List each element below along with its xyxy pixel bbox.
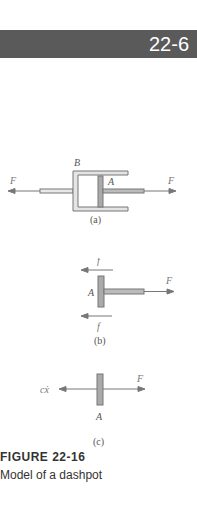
label-B: B [74, 157, 80, 168]
section-number: 22-6 [149, 31, 189, 57]
section-header-bar: 22-6 [0, 30, 197, 58]
dashpot-diagram-a: B A F F (a) [0, 150, 197, 225]
label-F: F [136, 373, 144, 384]
label-F-left: F [9, 175, 17, 186]
panel-label-c: (c) [93, 436, 104, 448]
label-cxdot: cẋ [40, 384, 49, 395]
label-f-bottom: f [97, 321, 101, 332]
label-A: A [107, 176, 115, 187]
dashpot-diagram-b: f A F f (b) [0, 258, 197, 348]
panel-label-b: (b) [94, 335, 106, 347]
label-F: F [165, 275, 173, 286]
label-A: A [87, 287, 95, 298]
dashpot-diagram-c: cẋ F A (c) [0, 368, 197, 450]
figure-caption-label: FIGURE 22-16 [0, 450, 85, 464]
figure-caption-text: Model of a dashpot [0, 468, 102, 482]
label-A: A [95, 411, 103, 422]
panel-label-a: (a) [90, 214, 101, 225]
label-f-top: f [97, 258, 101, 266]
label-F-right: F [167, 175, 175, 186]
